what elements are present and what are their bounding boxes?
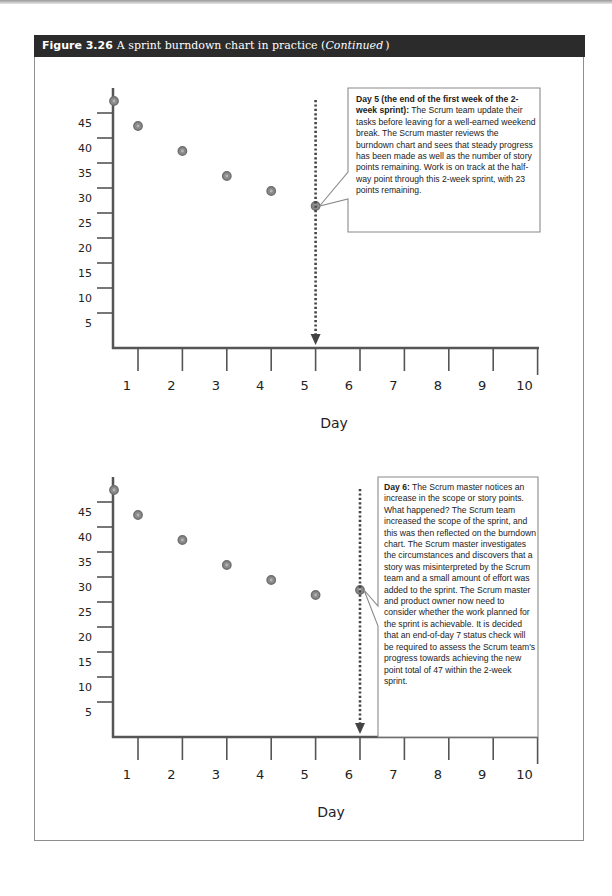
y-tick-label: 40	[78, 142, 92, 155]
y-tick-label: 15	[78, 656, 92, 669]
x-tick-label: 5	[300, 767, 308, 782]
data-points	[110, 486, 364, 599]
burndown-chart-day5: 45403530252015105 12345678910Day	[0, 0, 612, 440]
x-tick-label: 2	[167, 767, 175, 782]
x-axis: 12345678910Day	[112, 737, 538, 820]
y-tick-label: 35	[78, 556, 92, 569]
day-marker-arrow	[311, 100, 321, 345]
y-tick-label: 25	[78, 606, 92, 619]
y-tick-label: 10	[78, 292, 92, 305]
x-tick-label: 10	[516, 767, 533, 782]
y-tick-label: 30	[78, 192, 92, 205]
y-tick-label: 40	[78, 531, 92, 544]
x-tick-label: 3	[212, 767, 220, 782]
y-tick-label: 25	[78, 217, 92, 230]
y-tick-label: 5	[85, 706, 92, 719]
callout-body: The Scrum team update their tasks before…	[356, 105, 536, 195]
callout-day6: Day 6: The Scrum master notices an incre…	[384, 482, 536, 687]
y-tick-label: 30	[78, 581, 92, 594]
y-tick-label: 45	[78, 117, 92, 130]
x-tick-label: 8	[434, 767, 442, 782]
callout-body: The Scrum master notices an increase in …	[384, 482, 536, 686]
callout-lead: Day 6:	[384, 482, 410, 492]
y-tick-label: 15	[78, 267, 92, 280]
x-tick-label: 6	[345, 767, 353, 782]
y-tick-label: 20	[78, 631, 92, 644]
y-tick-label: 20	[78, 242, 92, 255]
data-points	[110, 97, 320, 210]
x-tick-label: 9	[478, 767, 486, 782]
y-axis: 45403530252015105	[78, 88, 113, 349]
x-tick-label: 7	[389, 767, 397, 782]
y-tick-label: 35	[78, 167, 92, 180]
y-axis: 45403530252015105	[78, 477, 113, 738]
y-tick-label: 45	[78, 506, 92, 519]
callout-day5: Day 5 (the end of the first week of the …	[356, 94, 538, 197]
y-tick-label: 10	[78, 681, 92, 694]
y-tick-label: 5	[85, 317, 92, 330]
x-tick-label: 4	[256, 767, 264, 782]
x-axis-title: Day	[317, 804, 345, 820]
day-marker-arrow	[355, 489, 365, 734]
x-tick-label: 1	[123, 767, 131, 782]
